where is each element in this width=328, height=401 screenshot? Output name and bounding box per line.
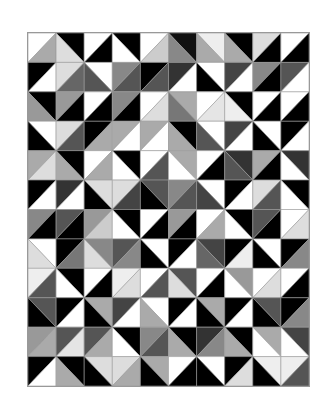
quilt-cell bbox=[28, 268, 56, 297]
quilt-cell bbox=[56, 151, 84, 180]
quilt-cell bbox=[225, 239, 253, 268]
quilt-cell bbox=[84, 210, 112, 239]
quilt-cell bbox=[225, 327, 253, 356]
quilt-cell bbox=[281, 180, 309, 209]
quilt-cell bbox=[197, 151, 225, 180]
quilt-cell bbox=[197, 210, 225, 239]
quilt-cell bbox=[281, 239, 309, 268]
quilt-cell bbox=[56, 33, 84, 62]
quilt-cell bbox=[84, 357, 112, 386]
quilt-cell bbox=[281, 62, 309, 91]
quilt-cell bbox=[225, 92, 253, 121]
quilt-cell bbox=[225, 180, 253, 209]
quilt-cell bbox=[281, 357, 309, 386]
quilt-cell bbox=[169, 357, 197, 386]
quilt-cell bbox=[112, 62, 140, 91]
quilt-cell bbox=[112, 92, 140, 121]
quilt-cell bbox=[56, 121, 84, 150]
quilt-cell bbox=[281, 121, 309, 150]
quilt-cell bbox=[169, 62, 197, 91]
quilt-cell bbox=[84, 151, 112, 180]
quilt-cell bbox=[253, 92, 281, 121]
quilt-cell bbox=[225, 151, 253, 180]
quilt-cell bbox=[140, 239, 168, 268]
quilt-cell bbox=[112, 151, 140, 180]
quilt-cell bbox=[281, 210, 309, 239]
quilt-cell bbox=[225, 62, 253, 91]
quilt-cell bbox=[112, 298, 140, 327]
quilt-cell bbox=[56, 210, 84, 239]
quilt-cell bbox=[253, 210, 281, 239]
quilt-cell bbox=[140, 92, 168, 121]
quilt-cell bbox=[28, 151, 56, 180]
quilt-cell bbox=[28, 298, 56, 327]
quilt-cell bbox=[140, 151, 168, 180]
quilt-cell bbox=[169, 210, 197, 239]
quilt-cell bbox=[169, 151, 197, 180]
quilt-cell bbox=[253, 62, 281, 91]
quilt-cell bbox=[112, 210, 140, 239]
quilt-cell bbox=[197, 268, 225, 297]
quilt-cell bbox=[28, 327, 56, 356]
quilt-cell bbox=[112, 357, 140, 386]
quilt-cell bbox=[84, 327, 112, 356]
quilt-cell bbox=[169, 298, 197, 327]
quilt-cell bbox=[28, 357, 56, 386]
quilt-cell bbox=[56, 62, 84, 91]
quilt-cell bbox=[56, 357, 84, 386]
quilt-cell bbox=[281, 151, 309, 180]
quilt-cell bbox=[140, 327, 168, 356]
quilt-cell bbox=[281, 92, 309, 121]
quilt-cell bbox=[197, 239, 225, 268]
quilt-cell bbox=[225, 121, 253, 150]
quilt-cell bbox=[253, 180, 281, 209]
quilt-cell bbox=[84, 180, 112, 209]
quilt-cell bbox=[56, 268, 84, 297]
quilt-cell bbox=[253, 239, 281, 268]
quilt-cell bbox=[225, 210, 253, 239]
quilt-cell bbox=[28, 180, 56, 209]
quilt-cell bbox=[28, 239, 56, 268]
quilt-cell bbox=[197, 92, 225, 121]
quilt-cell bbox=[28, 92, 56, 121]
quilt-cell bbox=[112, 180, 140, 209]
quilt-cell bbox=[281, 298, 309, 327]
quilt-cell bbox=[253, 298, 281, 327]
quilt-cell bbox=[281, 327, 309, 356]
quilt-cell bbox=[253, 121, 281, 150]
quilt-cell bbox=[84, 121, 112, 150]
quilt-cell bbox=[28, 210, 56, 239]
quilt-cell bbox=[28, 33, 56, 62]
quilt-cell bbox=[56, 92, 84, 121]
quilt-cell bbox=[140, 33, 168, 62]
quilt-cell bbox=[169, 327, 197, 356]
quilt-cell bbox=[169, 268, 197, 297]
quilt-cell bbox=[253, 327, 281, 356]
quilt-cell bbox=[197, 121, 225, 150]
quilt-cell bbox=[28, 62, 56, 91]
quilt-cell bbox=[140, 62, 168, 91]
quilt-cell bbox=[225, 268, 253, 297]
quilt-cell bbox=[169, 239, 197, 268]
quilt-cell bbox=[84, 62, 112, 91]
quilt-cell bbox=[253, 151, 281, 180]
quilt-cell bbox=[225, 33, 253, 62]
quilt-cell bbox=[112, 327, 140, 356]
quilt-cell bbox=[84, 298, 112, 327]
quilt-cell bbox=[56, 298, 84, 327]
quilt-cell bbox=[169, 33, 197, 62]
quilt-cell bbox=[112, 33, 140, 62]
quilt-cell bbox=[281, 268, 309, 297]
quilt-cell bbox=[56, 180, 84, 209]
quilt-cell bbox=[56, 239, 84, 268]
quilt-cell bbox=[140, 298, 168, 327]
quilt-cell bbox=[140, 268, 168, 297]
quilt-cell bbox=[112, 121, 140, 150]
quilt-cell bbox=[225, 298, 253, 327]
quilt-pattern bbox=[27, 32, 310, 387]
quilt-cell bbox=[169, 92, 197, 121]
quilt-cell bbox=[28, 121, 56, 150]
quilt-cell bbox=[169, 121, 197, 150]
quilt-cell bbox=[225, 357, 253, 386]
quilt-grid bbox=[28, 33, 309, 386]
